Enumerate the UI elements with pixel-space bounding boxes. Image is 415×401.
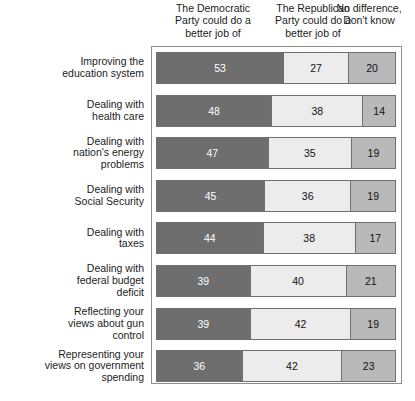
segment-democratic: 39 (156, 308, 250, 340)
segment-no-difference: 21 (346, 265, 396, 297)
chart-row: Dealing with nation's energy problems473… (0, 137, 415, 169)
chart-column-headers: The Democratic Party could do a better j… (0, 0, 415, 46)
legend-label-democratic: The Democratic Party could do a better j… (152, 2, 274, 39)
segment-democratic: 53 (156, 52, 283, 84)
segment-republican: 36 (264, 180, 350, 212)
row-label: Dealing with Social Security (0, 184, 144, 208)
segment-no-difference: 14 (362, 95, 396, 127)
stacked-bar: 394219 (156, 308, 396, 340)
chart-row: Representing your views on government sp… (0, 350, 415, 382)
stacked-bar: 443817 (156, 222, 396, 254)
chart-row: Dealing with Social Security453619 (0, 180, 415, 212)
row-label: Dealing with health care (0, 99, 144, 123)
row-label: Dealing with taxes (0, 227, 144, 251)
row-label: Improving the education system (0, 56, 144, 80)
segment-democratic: 36 (156, 350, 242, 382)
segment-republican: 42 (242, 350, 342, 382)
stacked-bar-chart: The Democratic Party could do a better j… (0, 0, 415, 401)
segment-democratic: 45 (156, 180, 264, 212)
segment-democratic: 47 (156, 137, 268, 169)
stacked-bar: 483814 (156, 95, 396, 127)
segment-republican: 38 (263, 222, 355, 254)
segment-no-difference: 19 (351, 137, 396, 169)
segment-republican: 38 (271, 95, 362, 127)
stacked-bar: 364223 (156, 350, 396, 382)
stacked-bar: 453619 (156, 180, 396, 212)
stacked-bar: 394021 (156, 265, 396, 297)
chart-row: Improving the education system532720 (0, 52, 415, 84)
chart-row: Dealing with taxes443817 (0, 222, 415, 254)
row-label: Representing your views on government sp… (0, 349, 144, 384)
chart-rows: Improving the education system532720Deal… (0, 46, 415, 384)
stacked-bar: 473519 (156, 137, 396, 169)
segment-republican: 40 (250, 265, 346, 297)
segment-no-difference: 20 (348, 52, 396, 84)
segment-no-difference: 17 (355, 222, 396, 254)
segment-democratic: 48 (156, 95, 271, 127)
row-label: Reflecting your views about gun control (0, 306, 144, 341)
segment-no-difference: 19 (350, 180, 396, 212)
segment-republican: 42 (250, 308, 351, 340)
segment-no-difference: 23 (341, 350, 396, 382)
segment-democratic: 39 (156, 265, 250, 297)
segment-republican: 35 (268, 137, 351, 169)
legend-label-no-difference: No difference, Don't know (326, 2, 412, 27)
segment-no-difference: 19 (350, 308, 396, 340)
segment-republican: 27 (283, 52, 348, 84)
stacked-bar: 532720 (156, 52, 396, 84)
segment-democratic: 44 (156, 222, 263, 254)
chart-row: Dealing with federal budget deficit39402… (0, 265, 415, 297)
chart-row: Dealing with health care483814 (0, 95, 415, 127)
row-label: Dealing with nation's energy problems (0, 136, 144, 171)
chart-row: Reflecting your views about gun control3… (0, 308, 415, 340)
row-label: Dealing with federal budget deficit (0, 263, 144, 298)
